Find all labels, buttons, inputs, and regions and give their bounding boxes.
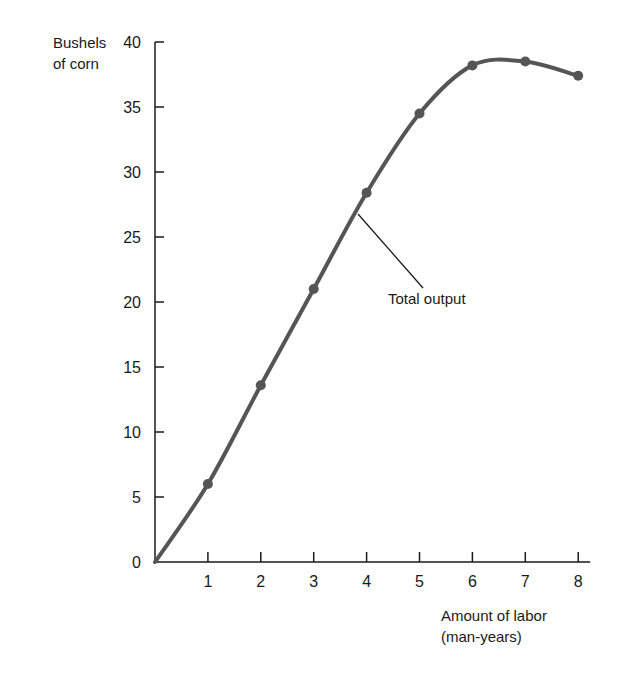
total-output-line <box>155 57 583 563</box>
x-tick-label: 4 <box>362 573 371 590</box>
y-axis-title-line: of corn <box>53 55 99 72</box>
x-axis: 12345678 <box>155 552 590 590</box>
x-tick-label: 2 <box>256 573 265 590</box>
data-point-marker <box>203 479 213 489</box>
y-axis-title: Bushelsof corn <box>53 34 106 72</box>
y-tick-label: 10 <box>123 424 141 441</box>
x-tick-label: 7 <box>521 573 530 590</box>
data-point-marker <box>520 57 530 67</box>
x-tick-label: 5 <box>415 573 424 590</box>
data-point-marker <box>415 109 425 119</box>
annotation-leader-line <box>358 214 423 288</box>
x-axis-title: Amount of labor(man-years) <box>441 607 547 645</box>
y-axis: 0510152025303540 <box>123 34 164 571</box>
y-tick-label: 15 <box>123 359 141 376</box>
x-axis-title-line: Amount of labor <box>441 607 547 624</box>
data-point-marker <box>467 60 477 70</box>
x-axis-title-line: (man-years) <box>441 628 522 645</box>
x-tick-label: 8 <box>574 573 583 590</box>
data-point-marker <box>573 71 583 81</box>
y-tick-label: 5 <box>132 489 141 506</box>
y-tick-label: 30 <box>123 164 141 181</box>
y-tick-label: 20 <box>123 294 141 311</box>
total-output-annotation: Total output <box>358 214 466 307</box>
y-axis-title-line: Bushels <box>53 34 106 51</box>
data-point-marker <box>362 188 372 198</box>
total-output-chart: Bushelsof corn 0510152025303540 12345678… <box>0 0 622 678</box>
y-tick-label: 35 <box>123 99 141 116</box>
y-tick-label: 0 <box>132 554 141 571</box>
total-output-curve <box>155 60 578 562</box>
y-tick-label: 25 <box>123 229 141 246</box>
annotation-label: Total output <box>388 290 466 307</box>
x-tick-label: 3 <box>309 573 318 590</box>
y-tick-label: 40 <box>123 34 141 51</box>
x-tick-label: 1 <box>203 573 212 590</box>
data-point-marker <box>309 284 319 294</box>
data-point-marker <box>256 380 266 390</box>
x-tick-label: 6 <box>468 573 477 590</box>
